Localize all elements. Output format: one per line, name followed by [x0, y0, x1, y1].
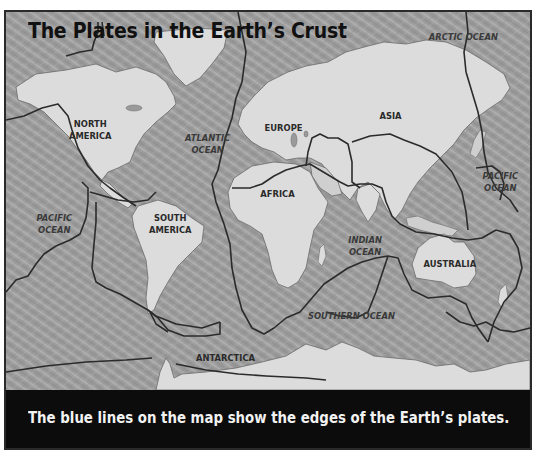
label-pacific-ocean-east: PACIFIC OCEAN [482, 170, 518, 194]
label-africa: AFRICA [260, 188, 294, 200]
label-arctic-ocean: ARCTIC OCEAN [429, 31, 498, 43]
map-frame: The Plates in the Earth’s Crust NORTH AM… [4, 10, 532, 450]
label-southern-ocean: SOUTHERN OCEAN [308, 310, 395, 322]
label-antarctica: ANTARCTICA [196, 352, 255, 364]
label-australia: AUSTRALIA [424, 258, 477, 270]
label-asia: ASIA [380, 110, 402, 122]
caption-bar: The blue lines on the map show the edges… [6, 390, 530, 448]
world-map [6, 12, 530, 390]
label-north-america: NORTH AMERICA [69, 118, 112, 142]
label-south-america: SOUTH AMERICA [149, 212, 192, 236]
map-title: The Plates in the Earth’s Crust [28, 18, 347, 43]
map-caption: The blue lines on the map show the edges… [28, 409, 509, 427]
label-europe: EUROPE [265, 122, 303, 134]
label-pacific-ocean-west: PACIFIC OCEAN [36, 212, 72, 236]
label-atlantic-ocean: ATLANTIC OCEAN [185, 132, 230, 156]
label-indian-ocean: INDIAN OCEAN [348, 234, 382, 258]
